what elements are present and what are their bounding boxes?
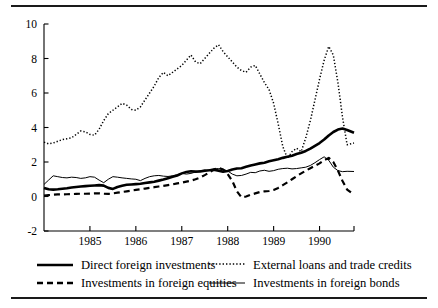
y-tick-label: -2 [27,225,37,237]
line-chart: -20246810198519861987198819891990 [0,12,438,250]
legend-entry-investments-in-foreign-bonds: Investments in foreign bonds [208,274,400,292]
chart-legend: Direct foreign investments External loan… [0,256,438,294]
series-line-direct-foreign-investments [44,129,354,190]
x-tick-label: 1986 [124,235,147,247]
x-tick-label: 1985 [78,235,101,247]
y-tick-label: 0 [31,191,37,203]
legend-label: Direct foreign investments [81,258,215,272]
legend-row: Investments in foreign equities Investme… [0,274,438,292]
legend-row: Direct foreign investments External loan… [0,256,438,274]
x-tick-label: 1989 [262,235,285,247]
y-tick-label: 2 [31,156,37,168]
series-line-investments-in-foreign-bonds [44,157,354,185]
series-line-investments-in-foreign-equities [44,158,354,198]
x-tick-label: 1990 [308,235,331,247]
legend-label: Investments in foreign bonds [253,276,400,290]
y-tick-label: 10 [26,18,38,30]
top-rule [11,5,427,7]
y-tick-label: 6 [31,87,37,99]
figure: -20246810198519861987198819891990 Direct… [0,0,438,308]
legend-sample-dotted-icon [208,259,246,271]
legend-sample-solid-thin-icon [208,277,246,289]
legend-label: External loans and trade credits [253,258,412,272]
legend-sample-solid-thick-icon [36,259,74,271]
y-tick-label: 4 [31,122,37,134]
legend-entry-investments-in-foreign-equities: Investments in foreign equities [36,274,237,292]
series-line-external-loans-and-trade-credits [44,45,354,159]
bottom-rule [11,297,427,299]
chart-plot-area: -20246810198519861987198819891990 [0,12,438,250]
legend-entry-direct-foreign-investments: Direct foreign investments [36,256,215,274]
x-tick-label: 1988 [216,235,239,247]
x-tick-label: 1987 [170,235,193,247]
legend-entry-external-loans-and-trade-credits: External loans and trade credits [208,256,412,274]
y-tick-label: 8 [31,53,37,65]
legend-sample-dashed-icon [36,277,74,289]
